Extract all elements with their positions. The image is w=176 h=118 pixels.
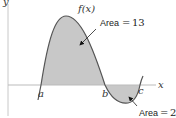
area-2-label: Area = 2	[139, 107, 176, 118]
point-b-label: b	[102, 88, 108, 99]
svg-text:=: =	[122, 17, 130, 28]
x-axis-label: x	[158, 79, 164, 90]
area-diagram: y f(x) x a b c Area = 13 Area = 2	[0, 0, 176, 118]
function-label: f(x)	[77, 3, 95, 14]
svg-text:=: =	[160, 107, 168, 118]
svg-text:2: 2	[170, 107, 176, 118]
svg-text:Area: Area	[139, 108, 158, 118]
positive-area-fill	[41, 16, 105, 85]
point-a-label: a	[38, 88, 44, 99]
area-13-label: Area = 13	[100, 17, 145, 28]
svg-text:Area: Area	[100, 18, 119, 28]
point-c-label: c	[138, 85, 144, 96]
y-axis-label: y	[2, 0, 9, 7]
svg-text:13: 13	[132, 17, 145, 28]
